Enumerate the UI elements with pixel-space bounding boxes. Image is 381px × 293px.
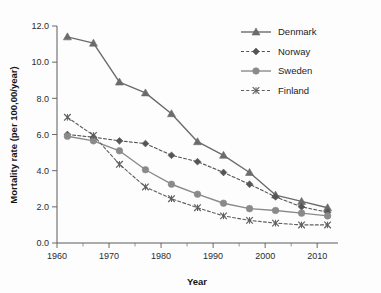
series-norway-point-7-diamond-marker — [246, 181, 253, 188]
series-sweden-point-9-circle-marker — [298, 210, 305, 217]
legend-item-finland[interactable]: Finland — [241, 85, 309, 96]
y-tick-label: 8.0 — [36, 94, 49, 104]
x-tick-label: 1960 — [47, 251, 67, 261]
series-finland-point-1-cross-marker — [90, 132, 97, 139]
series-finland-point-2-cross-marker — [116, 161, 123, 168]
series-sweden-point-7-circle-marker — [246, 205, 253, 212]
x-tick-label: 2000 — [255, 251, 275, 261]
x-tick-label: 2010 — [307, 251, 327, 261]
legend-label-sweden: Sweden — [278, 65, 312, 76]
series-finland-point-6-cross-marker — [220, 213, 227, 220]
series-layer — [63, 33, 331, 228]
series-sweden-point-8-circle-marker — [272, 207, 279, 214]
legend-norway-diamond-marker — [253, 48, 260, 55]
series-norway-point-3-diamond-marker — [142, 140, 149, 147]
series-sweden-point-2-circle-marker — [116, 147, 123, 154]
series-norway-point-6-diamond-marker — [220, 169, 227, 176]
x-axis-title: Year — [187, 276, 207, 287]
series-finland-point-5-cross-marker — [194, 204, 201, 211]
chart-legend: DenmarkNorwaySwedenFinland — [241, 26, 317, 96]
legend-item-sweden[interactable]: Sweden — [241, 65, 312, 76]
series-line-sweden — [67, 136, 327, 216]
series-sweden-point-4-circle-marker — [168, 181, 175, 188]
series-line-denmark — [67, 37, 327, 208]
series-finland — [64, 114, 331, 228]
x-tick-label: 1980 — [151, 251, 171, 261]
series-sweden-point-6-circle-marker — [220, 200, 227, 207]
series-sweden-point-10-circle-marker — [324, 213, 331, 220]
x-axis-minor-ticks — [83, 243, 291, 247]
legend-sweden-circle-marker — [253, 68, 260, 75]
legend-item-denmark[interactable]: Denmark — [241, 26, 317, 37]
x-tick-label: 1970 — [99, 251, 119, 261]
y-tick-label: 10.0 — [31, 57, 49, 67]
series-sweden-point-0-circle-marker — [64, 133, 71, 140]
series-denmark-point-0-triangle-marker — [63, 33, 71, 40]
series-finland-point-3-cross-marker — [142, 184, 149, 191]
series-finland-point-7-cross-marker — [246, 217, 253, 224]
series-norway-point-4-diamond-marker — [168, 152, 175, 159]
y-axis-title: Mortality rate (per 100,00/year) — [8, 66, 19, 203]
y-tick-label: 6.0 — [36, 130, 49, 140]
legend-label-norway: Norway — [278, 46, 310, 57]
y-axis-ticks: 0.02.04.06.08.010.012.0 — [31, 21, 57, 248]
legend-label-finland: Finland — [278, 85, 309, 96]
y-tick-label: 0.0 — [36, 238, 49, 248]
series-finland-point-0-cross-marker — [64, 114, 71, 121]
legend-item-norway[interactable]: Norway — [241, 46, 310, 57]
series-norway-point-2-diamond-marker — [116, 137, 123, 144]
series-finland-point-8-cross-marker — [272, 220, 279, 227]
y-tick-label: 12.0 — [31, 21, 49, 31]
legend-label-denmark: Denmark — [278, 26, 317, 37]
x-tick-label: 1990 — [203, 251, 223, 261]
y-tick-label: 4.0 — [36, 166, 49, 176]
mortality-rate-line-chart: 0.02.04.06.08.010.012.0 1960197019801990… — [0, 0, 381, 293]
series-norway-point-8-diamond-marker — [272, 193, 279, 200]
chart-figure: 0.02.04.06.08.010.012.0 1960197019801990… — [0, 0, 381, 293]
series-denmark-point-7-triangle-marker — [246, 168, 254, 175]
series-sweden-point-5-circle-marker — [194, 191, 201, 198]
series-sweden-point-3-circle-marker — [142, 166, 149, 173]
series-denmark-point-6-triangle-marker — [220, 151, 228, 158]
series-denmark — [63, 33, 331, 211]
y-tick-label: 2.0 — [36, 202, 49, 212]
series-norway-point-5-diamond-marker — [194, 158, 201, 165]
series-finland-point-4-cross-marker — [168, 195, 175, 202]
